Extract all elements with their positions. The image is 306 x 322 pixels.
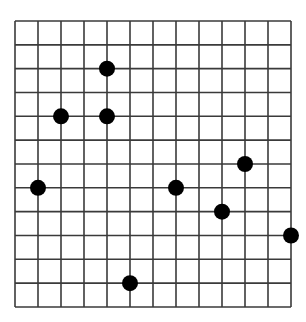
grid-point	[214, 204, 230, 220]
grid-point	[168, 180, 184, 196]
grid-point	[53, 108, 69, 124]
grid-point	[99, 108, 115, 124]
dot-grid-board	[0, 0, 306, 322]
grid-point	[122, 275, 138, 291]
grid-point	[283, 227, 299, 243]
grid-point	[237, 156, 253, 172]
grid-point	[99, 61, 115, 77]
grid-point	[30, 180, 46, 196]
grid-points	[30, 61, 299, 291]
